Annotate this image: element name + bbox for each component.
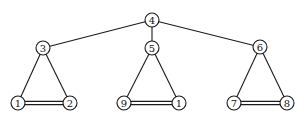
node-label: 6 — [257, 42, 263, 53]
node-n9: 9 — [117, 96, 131, 110]
node-n8: 8 — [280, 96, 294, 110]
node-n7: 7 — [227, 96, 241, 110]
edge-n6-n7 — [234, 47, 260, 103]
node-n3: 3 — [36, 41, 50, 55]
edge-n4-n3 — [43, 20, 152, 48]
node-label: 1 — [176, 98, 182, 109]
node-label: 2 — [67, 98, 73, 109]
edge-n5-n1b — [152, 48, 179, 103]
node-label: 7 — [231, 98, 237, 109]
edge-n5-n9 — [124, 48, 152, 103]
node-n5: 5 — [145, 41, 159, 55]
node-n4: 4 — [145, 13, 159, 27]
edge-n4-n6 — [152, 20, 260, 47]
node-n1b: 1 — [172, 96, 186, 110]
node-label: 5 — [149, 43, 155, 54]
node-n2: 2 — [63, 96, 77, 110]
node-label: 3 — [40, 43, 46, 54]
node-label: 8 — [284, 98, 290, 109]
edge-n6-n8 — [260, 47, 287, 103]
node-n6: 6 — [253, 40, 267, 54]
node-label: 9 — [121, 98, 127, 109]
edge-n3-n2 — [43, 48, 70, 103]
graph-diagram: 4356129178 — [0, 0, 305, 119]
edge-n3-n1a — [18, 48, 43, 103]
node-label: 4 — [149, 15, 155, 26]
edges-layer — [18, 20, 287, 105]
node-n1a: 1 — [11, 96, 25, 110]
node-label: 1 — [15, 98, 21, 109]
